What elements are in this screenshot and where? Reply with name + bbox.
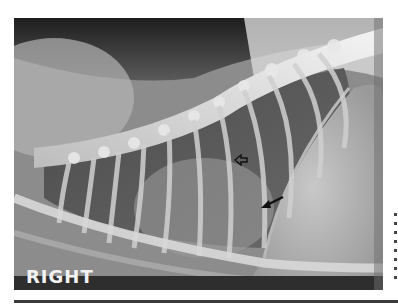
- right-side-marker: RIGHT: [26, 268, 94, 286]
- bottom-divider: [14, 300, 398, 303]
- radiograph-image: RIGHT: [14, 18, 383, 290]
- radiograph-graphic: [14, 18, 383, 290]
- side-dashes: [394, 213, 397, 283]
